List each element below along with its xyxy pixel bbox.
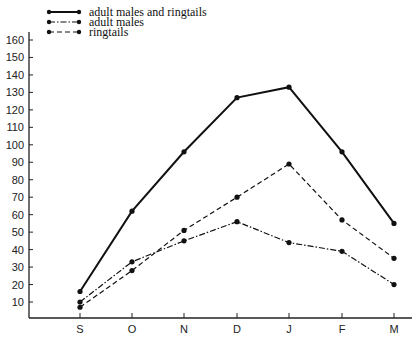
y-tick-label: 160 xyxy=(6,34,24,46)
y-tick-label: 70 xyxy=(12,191,24,203)
data-point xyxy=(234,95,239,100)
data-point xyxy=(181,228,186,233)
data-point xyxy=(339,149,344,154)
y-tick-label: 20 xyxy=(12,279,24,291)
data-point xyxy=(129,209,134,214)
series-lines xyxy=(77,85,396,310)
y-tick-label: 110 xyxy=(6,121,24,133)
data-point xyxy=(77,289,82,294)
data-point xyxy=(391,221,396,226)
x-tick-label: D xyxy=(233,323,241,335)
data-point xyxy=(286,240,291,245)
data-point xyxy=(234,219,239,224)
data-point xyxy=(391,282,396,287)
data-point xyxy=(129,259,134,264)
data-point xyxy=(339,249,344,254)
y-tick-label: 150 xyxy=(6,51,24,63)
legend-marker xyxy=(47,10,51,14)
y-tick-label: 80 xyxy=(12,174,24,186)
legend-marker xyxy=(77,30,81,34)
series-line-2 xyxy=(80,222,394,302)
series-line-3 xyxy=(80,164,394,307)
x-tick-label: O xyxy=(128,323,137,335)
x-tick-label: M xyxy=(389,323,398,335)
data-point xyxy=(77,299,82,304)
data-point xyxy=(181,238,186,243)
axes: 102030405060708090100110120130140150160S… xyxy=(6,32,412,335)
legend-marker xyxy=(77,10,81,14)
series-line-1 xyxy=(80,87,394,291)
y-tick-label: 60 xyxy=(12,209,24,221)
legend: adult males and ringtailsadult malesring… xyxy=(47,5,207,39)
x-tick-label: N xyxy=(180,323,188,335)
y-tick-label: 30 xyxy=(12,261,24,273)
data-point xyxy=(77,305,82,310)
x-tick-label: S xyxy=(76,323,83,335)
legend-marker xyxy=(77,20,81,24)
data-point xyxy=(339,217,344,222)
legend-label: ringtails xyxy=(89,25,129,39)
data-point xyxy=(181,149,186,154)
legend-marker xyxy=(47,20,51,24)
legend-marker xyxy=(47,30,51,34)
data-point xyxy=(286,161,291,166)
data-point xyxy=(129,268,134,273)
y-tick-label: 90 xyxy=(12,156,24,168)
data-point xyxy=(391,256,396,261)
y-tick-label: 10 xyxy=(12,296,24,308)
y-tick-label: 100 xyxy=(6,139,24,151)
y-tick-label: 140 xyxy=(6,69,24,81)
data-point xyxy=(286,85,291,90)
y-tick-label: 130 xyxy=(6,86,24,98)
line-chart: adult males and ringtailsadult malesring… xyxy=(0,0,418,342)
y-tick-label: 40 xyxy=(12,244,24,256)
x-tick-label: J xyxy=(286,323,292,335)
x-tick-label: F xyxy=(339,323,346,335)
data-point xyxy=(234,195,239,200)
y-tick-label: 50 xyxy=(12,226,24,238)
y-tick-label: 120 xyxy=(6,104,24,116)
